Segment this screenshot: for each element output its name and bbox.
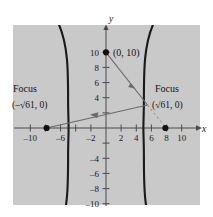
y-tick-label-10: 10	[90, 48, 100, 58]
y-tick-label-4: 4	[95, 93, 100, 103]
left-focus-title: Focus	[13, 83, 37, 94]
x-tick-label--6: –6	[55, 133, 66, 143]
x-tick-label-10: 10	[177, 133, 187, 143]
x-tick-label-8: 8	[164, 133, 169, 143]
x-tick-label-2: 2	[119, 133, 124, 143]
point-label-0-10: (0, 10)	[113, 47, 140, 59]
x-tick-label--2: –2	[85, 133, 95, 143]
right-focus-coords: (√61, 0)	[152, 100, 183, 111]
x-tick-label-6: 6	[149, 133, 154, 143]
right-focus-point	[162, 125, 168, 131]
figure-svg: –10 –6 –2 2 4 6 8 10 10 8 6 4 –4 –6 –8 –…	[0, 0, 213, 217]
x-tick-label--10: –10	[23, 133, 38, 143]
y-tick-label--10: –10	[85, 199, 100, 209]
left-focus-point	[44, 125, 50, 131]
y-axis-name: y	[108, 14, 114, 24]
left-focus-coords: (–√61, 0)	[12, 100, 47, 111]
x-tick-label-4: 4	[134, 133, 139, 143]
right-focus-title: Focus	[155, 83, 179, 94]
x-axis-name: x	[201, 124, 207, 134]
y-tick-label--8: –8	[89, 184, 100, 194]
y-tick-label-6: 6	[95, 78, 100, 88]
y-tick-label--6: –6	[89, 169, 100, 179]
y-tick-label--4: –4	[89, 154, 100, 164]
y-tick-label-8: 8	[95, 63, 100, 73]
hyperbola-figure: –10 –6 –2 2 4 6 8 10 10 8 6 4 –4 –6 –8 –…	[0, 0, 213, 217]
given-point-0-10	[103, 49, 109, 55]
